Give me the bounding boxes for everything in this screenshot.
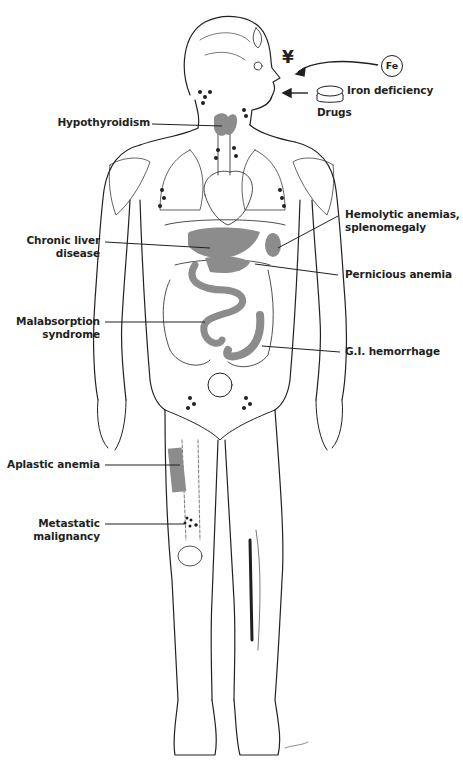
inner-arm-left	[121, 200, 130, 400]
iron-fe-icon: Fe	[381, 55, 403, 77]
label-line-2: disease	[26, 247, 100, 260]
drugs-pill-icon	[317, 86, 343, 102]
label-chronic-liver-disease: Chronic liver disease	[26, 234, 100, 260]
label-drugs: Drugs	[317, 106, 352, 119]
torso-left	[94, 145, 140, 400]
small-intestine-highlight	[192, 265, 243, 343]
leg-left-inner	[211, 440, 218, 700]
label-gi-hemorrhage: G.I. hemorrhage	[345, 345, 440, 358]
bone-marrow-highlight	[168, 447, 187, 492]
label-iron-deficiency: Iron deficiency	[347, 84, 433, 97]
spleen-highlight	[265, 233, 281, 257]
stomach-highlight	[205, 256, 250, 273]
label-pernicious-anemia: Pernicious anemia	[345, 268, 452, 281]
colon-bleed-highlight	[227, 315, 260, 356]
label-line-2: splenomegaly	[345, 221, 460, 234]
inner-arm-right	[312, 200, 321, 400]
head-outline	[184, 16, 280, 125]
label-malabsorption-syndrome: Malabsorption syndrome	[16, 315, 100, 341]
label-hypothyroidism: Hypothyroidism	[57, 116, 150, 129]
liver-highlight	[188, 228, 260, 258]
thyroid-highlight	[214, 113, 237, 136]
label-line-1: Hemolytic anemias,	[345, 208, 460, 221]
neck-right	[250, 125, 295, 142]
yen-symbol: ¥	[282, 47, 294, 67]
torso-right	[295, 142, 346, 400]
waist-left	[140, 200, 165, 410]
label-line-2: syndrome	[16, 328, 100, 341]
label-line-2: malignancy	[33, 530, 100, 543]
label-line-1: Chronic liver	[26, 234, 100, 247]
label-hemolytic-anemias: Hemolytic anemias, splenomegaly	[345, 208, 460, 234]
label-metastatic-malignancy: Metastatic malignancy	[33, 517, 100, 543]
label-line-1: Malabsorption	[16, 315, 100, 328]
label-line-1: Metastatic	[33, 517, 100, 530]
label-aplastic-anemia: Aplastic anemia	[7, 458, 100, 471]
leg-right-inner	[225, 440, 235, 700]
waist-right	[275, 200, 300, 410]
leg-right-outer	[234, 410, 283, 755]
